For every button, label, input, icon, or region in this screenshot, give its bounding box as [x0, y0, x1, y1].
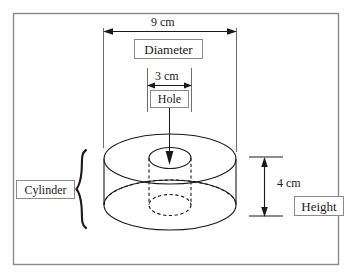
- label-hole: Hole: [150, 90, 189, 108]
- label-cylinder: Cylinder: [16, 180, 75, 199]
- dimension-text-hole-diameter: 3 cm: [155, 70, 179, 82]
- figure-canvas: Diameter Hole Cylinder Height 9 cm 3 cm …: [0, 0, 352, 276]
- dimension-text-outer-diameter: 9 cm: [151, 16, 175, 28]
- dimension-text-height: 4 cm: [277, 177, 301, 189]
- label-height: Height: [294, 196, 344, 216]
- label-diameter: Diameter: [134, 39, 203, 59]
